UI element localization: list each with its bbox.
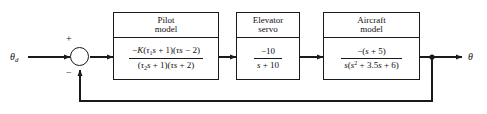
block-aircraft-body: −(s + 5) s(s2 + 3.5s + 6)	[324, 38, 419, 79]
block-elevator-servo-numerator: −10	[258, 46, 278, 58]
block-aircraft-transfer-function: −(s + 5) s(s2 + 3.5s + 6)	[341, 46, 402, 70]
summing-junction-plus: +	[66, 34, 72, 44]
block-aircraft: Aircraft model −(s + 5) s(s2 + 3.5s + 6)	[323, 12, 420, 80]
block-aircraft-title-line2: model	[360, 25, 383, 34]
block-elevator-servo-title-line2: servo	[258, 25, 278, 34]
block-pilot-body: −K(τ1s + 1)(τs − 2) (τ2s + 1)(τs + 2)	[114, 38, 218, 79]
block-pilot-title: Pilot model	[114, 13, 218, 38]
block-elevator-servo-denominator: s + 10	[254, 59, 282, 71]
input-label: θd	[10, 51, 18, 63]
block-elevator-servo-transfer-function: −10 s + 10	[254, 46, 282, 70]
block-elevator-servo-title: Elevator servo	[237, 13, 299, 38]
block-pilot-numerator: −K(τ1s + 1)(τs − 2)	[129, 45, 203, 58]
block-elevator-servo: Elevator servo −10 s + 10	[236, 12, 300, 80]
block-pilot-title-line2: model	[155, 25, 178, 34]
input-label-subscript: d	[15, 56, 18, 63]
block-aircraft-denominator: s(s2 + 3.5s + 6)	[341, 59, 402, 71]
block-diagram: + − θd θ Pilot model −K(τ1s + 1)(τs − 2)…	[0, 0, 487, 114]
block-pilot-denominator: (τ2s + 1)(τs + 2)	[135, 59, 198, 72]
block-elevator-servo-body: −10 s + 10	[237, 38, 299, 79]
summing-junction	[70, 47, 89, 66]
block-pilot: Pilot model −K(τ1s + 1)(τs − 2) (τ2s + 1…	[113, 12, 219, 80]
block-pilot-transfer-function: −K(τ1s + 1)(τs − 2) (τ2s + 1)(τs + 2)	[129, 45, 203, 71]
block-aircraft-numerator: −(s + 5)	[354, 46, 389, 58]
block-aircraft-title: Aircraft model	[324, 13, 419, 38]
summing-junction-minus: −	[66, 68, 72, 78]
output-label: θ	[468, 51, 473, 62]
